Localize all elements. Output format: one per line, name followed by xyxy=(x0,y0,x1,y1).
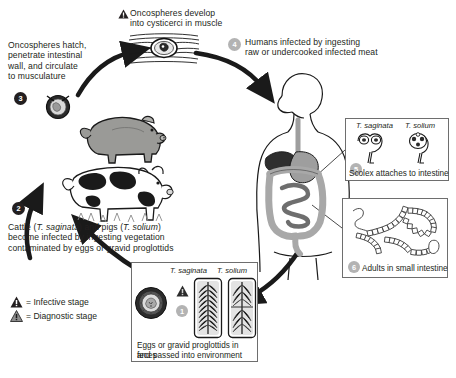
cysticercus-in-muscle-icon xyxy=(128,30,200,66)
life-cycle-diagram: Oncospheres develop into cysticerci in m… xyxy=(0,0,456,378)
step-badge-3: 3 xyxy=(14,92,27,105)
proglottid-saginata-icon xyxy=(193,277,223,339)
step-badge-1: 1 xyxy=(176,305,188,317)
step2-species-1: T. saginata xyxy=(36,222,79,232)
scolex-panel: T. saginata T. solium 5 Scolex attache xyxy=(345,118,449,181)
diagnostic-triangle-icon xyxy=(176,285,189,297)
top-label-block: Oncospheres develop into cysticerci in m… xyxy=(118,8,288,29)
step4-line2: raw or undercooked infected meat xyxy=(245,47,445,57)
scolex-saginata-icon xyxy=(354,131,400,165)
human-body-icon xyxy=(238,66,358,282)
legend-infective-label: = Infective stage xyxy=(26,297,89,307)
step2-l1c: ) xyxy=(158,222,161,232)
adult-tapeworms-icon xyxy=(347,203,445,263)
step2-l1b: ) and pigs ( xyxy=(79,222,123,232)
step-badge-6: 6 xyxy=(348,261,360,273)
step3-line4: to musculature xyxy=(8,71,116,81)
adults-panel: 6 Adults in small intestine xyxy=(342,198,448,278)
step2-species-2: T. solium xyxy=(123,222,158,232)
step3-line2: penetrate intestinal xyxy=(8,50,116,60)
step2-l1a: Cattle ( xyxy=(8,222,36,232)
step-badge-2: 2 xyxy=(12,202,25,215)
legend: = Infective stage = Diagnostic stage xyxy=(10,296,97,324)
eggs-species-right: T. solium xyxy=(217,266,247,275)
eggs-species-left: T. saginata xyxy=(170,266,207,275)
step4-line1: Humans infected by ingesting xyxy=(245,37,445,47)
cow-icon xyxy=(52,158,174,228)
scolex-caption: Scolex attaches to intestine xyxy=(349,169,449,179)
legend-diagnostic-row: = Diagnostic stage xyxy=(10,310,97,322)
step2-line1: Cattle (T. saginata) and pigs (T. solium… xyxy=(8,222,223,232)
legend-infective-row: = Infective stage xyxy=(10,296,97,308)
step3-line1: Oncospheres hatch, xyxy=(8,40,116,50)
adults-caption: Adults in small intestine xyxy=(362,264,448,274)
taenia-egg-icon xyxy=(134,285,168,321)
infective-triangle-icon xyxy=(118,9,129,19)
top-label-line1: Oncospheres develop xyxy=(130,8,215,18)
step3-line3: wall, and circulate xyxy=(8,61,116,71)
eggs-caption-line2: and passed into environment xyxy=(137,351,257,361)
proglottid-solium-icon xyxy=(227,277,257,339)
scolex-species-right: T. solium xyxy=(405,121,435,130)
scolex-solium-icon xyxy=(404,131,446,165)
legend-diagnostic-label: = Diagnostic stage xyxy=(26,311,97,321)
step2-line3: contaminated by eggs or gravid proglotti… xyxy=(8,243,223,253)
step4-text-block: Humans infected by ingesting raw or unde… xyxy=(245,37,445,58)
step3-text-block: Oncospheres hatch, penetrate intestinal … xyxy=(8,40,116,82)
eggs-panel: T. saginata T. solium xyxy=(131,262,258,362)
oncosphere-egg-icon xyxy=(44,92,72,120)
top-label-line2: into cysticerci in muscle xyxy=(130,18,288,28)
step-badge-4: 4 xyxy=(228,38,241,51)
infective-triangle-icon xyxy=(10,296,23,308)
scolex-species-left: T. saginata xyxy=(356,121,393,130)
step2-text-block: Cattle (T. saginata) and pigs (T. solium… xyxy=(8,222,223,253)
small-intestine xyxy=(282,185,308,226)
step2-line2: become infected by ingesting vegetation xyxy=(8,232,223,242)
diagnostic-triangle-icon xyxy=(10,310,23,322)
